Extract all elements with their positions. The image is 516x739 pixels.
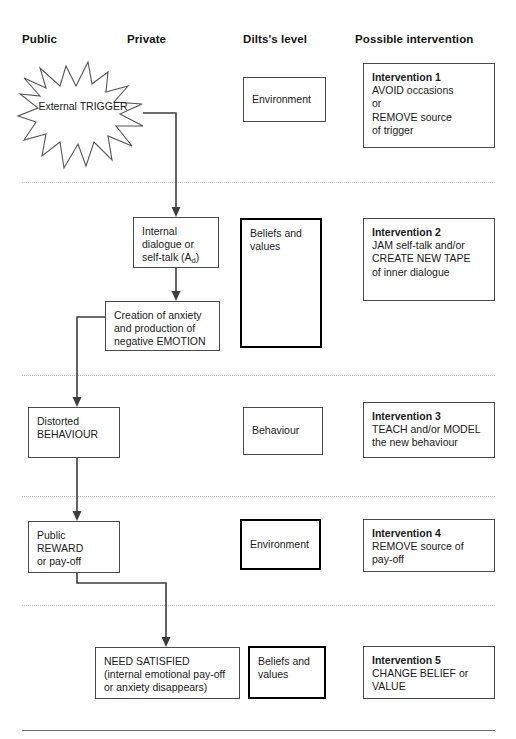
dilts-label-environment-1: Environment bbox=[252, 93, 317, 106]
private-box-internal-dialogue: Internal dialogue or self-talk (Ad) bbox=[133, 217, 219, 268]
arrowhead-reward bbox=[73, 511, 82, 521]
distorted-behaviour-line-1: Distorted bbox=[37, 415, 111, 428]
dilts-label-environment-2: Environment bbox=[250, 538, 311, 551]
dilts-box-beliefs-values-2: Beliefs and values bbox=[248, 646, 326, 699]
intervention-2-line-3: of inner dialogue bbox=[372, 266, 486, 279]
need-satisfied-line-1: NEED SATISFIED bbox=[104, 655, 231, 668]
intervention-box-3: Intervention 3 TEACH and/or MODEL the ne… bbox=[363, 402, 495, 458]
arrowhead-need bbox=[162, 637, 171, 647]
need-satisfied-line-2: (internal emotional pay-off bbox=[104, 668, 231, 681]
public-reward-line-2: or pay-off bbox=[37, 555, 111, 568]
internal-dialogue-line-3: self-talk (Ad) bbox=[142, 251, 210, 267]
intervention-box-2: Intervention 2 JAM self-talk and/or CREA… bbox=[363, 218, 495, 301]
distorted-behaviour-line-2: BEHAVIOUR bbox=[37, 428, 111, 441]
intervention-box-5: Intervention 5 CHANGE BELIEF or VALUE bbox=[363, 646, 495, 699]
self-talk-text: self-talk (A bbox=[142, 251, 192, 263]
beliefs-values-2-line-1: Beliefs and bbox=[258, 655, 316, 668]
internal-dialogue-line-2: dialogue or bbox=[142, 238, 210, 251]
intervention-3-line-2: the new behaviour bbox=[372, 436, 486, 449]
intervention-4-title: Intervention 4 bbox=[372, 527, 486, 540]
internal-dialogue-line-1: Internal bbox=[142, 225, 210, 238]
intervention-1-title: Intervention 1 bbox=[372, 71, 486, 84]
trigger-line-2: TRIGGER bbox=[80, 100, 128, 112]
intervention-5-title: Intervention 5 bbox=[372, 654, 486, 667]
external-trigger-text: External TRIGGER bbox=[38, 100, 128, 113]
intervention-1-line-2: or bbox=[372, 97, 486, 110]
intervention-box-4: Intervention 4 REMOVE source of pay-off bbox=[363, 519, 495, 572]
need-satisfied-line-3: or anxiety disappears) bbox=[104, 681, 231, 694]
intervention-5-line-1: CHANGE BELIEF or bbox=[372, 667, 486, 680]
arrowhead-emotion bbox=[172, 291, 181, 301]
diagram-canvas: Public Private Dilts's level Possible in… bbox=[0, 0, 516, 739]
self-talk-paren: ) bbox=[196, 251, 200, 263]
wire-reward-to-need bbox=[77, 573, 166, 638]
dilts-box-environment-2: Environment bbox=[240, 519, 321, 570]
beliefs-values-1-line-2: values bbox=[250, 240, 312, 253]
intervention-2-title: Intervention 2 bbox=[372, 226, 486, 239]
intervention-1-line-3: REMOVE source bbox=[372, 111, 486, 124]
intervention-1-line-1: AVOID occasions bbox=[372, 84, 486, 97]
arrowhead-behaviour bbox=[73, 397, 82, 407]
intervention-1-line-4: of trigger bbox=[372, 124, 486, 137]
starburst-shape bbox=[16, 60, 148, 170]
dilts-box-beliefs-values-1: Beliefs and values bbox=[240, 218, 322, 348]
trigger-line-1: External bbox=[38, 100, 77, 112]
beliefs-values-2-line-2: values bbox=[258, 668, 316, 681]
intervention-box-1: Intervention 1 AVOID occasions or REMOVE… bbox=[363, 63, 495, 148]
dilts-label-behaviour: Behaviour bbox=[252, 424, 314, 437]
private-box-emotion: Creation of anxiety and production of ne… bbox=[105, 301, 220, 351]
intervention-4-line-2: pay-off bbox=[372, 553, 486, 566]
private-box-need-satisfied: NEED SATISFIED (internal emotional pay-o… bbox=[95, 647, 240, 699]
intervention-3-title: Intervention 3 bbox=[372, 410, 486, 423]
emotion-line-2: and production of bbox=[114, 322, 211, 335]
public-box-distorted-behaviour: Distorted BEHAVIOUR bbox=[28, 407, 120, 458]
wire-emotion-to-behaviour bbox=[77, 317, 105, 398]
beliefs-values-1-line-1: Beliefs and bbox=[250, 227, 312, 240]
public-box-public-reward: Public REWARD or pay-off bbox=[28, 521, 120, 573]
emotion-line-1: Creation of anxiety bbox=[114, 309, 211, 322]
dilts-box-environment-1: Environment bbox=[243, 77, 326, 122]
emotion-line-3: negative EMOTION bbox=[114, 335, 211, 348]
public-reward-line-1: Public REWARD bbox=[37, 529, 111, 555]
dilts-box-behaviour: Behaviour bbox=[243, 407, 323, 455]
intervention-4-line-1: REMOVE source of bbox=[372, 540, 486, 553]
external-trigger-burst: External TRIGGER bbox=[16, 60, 148, 170]
intervention-2-line-2: CREATE NEW TAPE bbox=[372, 252, 486, 265]
intervention-2-line-1: JAM self-talk and/or bbox=[372, 239, 486, 252]
arrowhead-dialogue bbox=[172, 207, 181, 217]
intervention-3-line-1: TEACH and/or MODEL bbox=[372, 423, 486, 436]
intervention-5-line-2: VALUE bbox=[372, 680, 486, 693]
